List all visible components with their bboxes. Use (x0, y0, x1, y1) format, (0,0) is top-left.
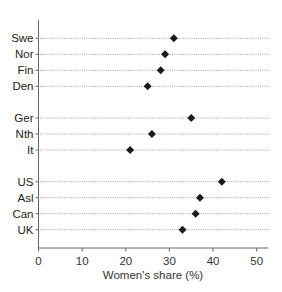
x-tick-label: 40 (207, 255, 220, 267)
x-tick-label: 50 (250, 255, 263, 267)
diamond-marker-icon (161, 50, 169, 58)
row-label: UK (18, 224, 34, 236)
data-row-den: Den (12, 80, 270, 92)
diamond-marker-icon (157, 66, 165, 74)
data-row-it: It (27, 144, 270, 156)
data-row-can: Can (12, 208, 270, 220)
dot-plot-chart: SweNorFinDenGerNthItUSAslCanUK 010203040… (0, 0, 282, 292)
diamond-marker-icon (187, 114, 195, 122)
data-row-nth: Nth (16, 128, 270, 140)
diamond-marker-icon (192, 210, 200, 218)
data-row-nor: Nor (15, 48, 270, 60)
row-label: Fin (18, 64, 34, 76)
data-row-swe: Swe (11, 32, 270, 44)
row-label: US (18, 176, 34, 188)
diamond-marker-icon (218, 178, 226, 186)
data-row-asl: Asl (18, 192, 270, 204)
row-label: Nth (16, 128, 34, 140)
data-row-ger: Ger (14, 112, 270, 124)
row-label: Ger (14, 112, 33, 124)
chart-rows: SweNorFinDenGerNthItUSAslCanUK (11, 32, 270, 235)
data-row-fin: Fin (18, 64, 270, 76)
row-label: Swe (11, 32, 33, 44)
diamond-marker-icon (170, 34, 178, 42)
row-label: Nor (15, 48, 34, 60)
row-label: Can (12, 208, 33, 220)
row-label: Asl (18, 192, 34, 204)
diamond-marker-icon (196, 194, 204, 202)
data-row-us: US (18, 176, 270, 188)
diamond-marker-icon (148, 130, 156, 138)
x-tick-label: 20 (119, 255, 132, 267)
x-tick-label: 0 (35, 255, 41, 267)
x-tick-label: 30 (163, 255, 176, 267)
diamond-marker-icon (179, 226, 187, 234)
row-label: Den (12, 80, 33, 92)
diamond-marker-icon (126, 146, 134, 154)
data-row-uk: UK (18, 224, 270, 236)
x-tick-label: 10 (76, 255, 89, 267)
x-axis-title: Women's share (%) (103, 269, 204, 281)
x-axis-ticks: 01020304050 (35, 248, 263, 267)
diamond-marker-icon (144, 82, 152, 90)
row-label: It (27, 144, 34, 156)
